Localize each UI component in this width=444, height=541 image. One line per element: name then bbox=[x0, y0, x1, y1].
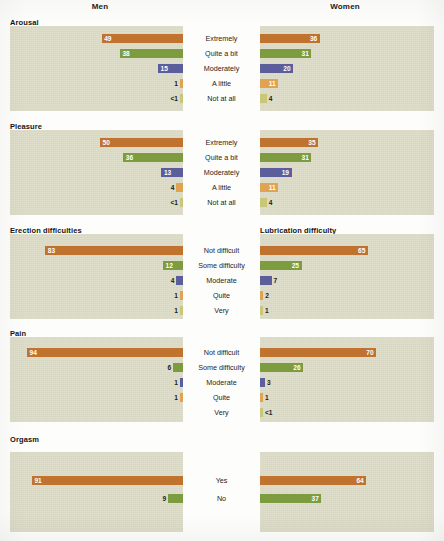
bar-track: 7 bbox=[260, 276, 433, 285]
bar-track: 35 bbox=[260, 138, 433, 147]
bar-track: 31 bbox=[260, 49, 433, 58]
category-label: Quite a bit bbox=[185, 49, 258, 58]
bar: 1 bbox=[260, 306, 263, 315]
bar: 50 bbox=[100, 138, 183, 147]
bar: <1 bbox=[180, 198, 183, 207]
bar-track: 4 bbox=[10, 276, 183, 285]
bar-track: 3 bbox=[260, 378, 433, 387]
bar: 2 bbox=[260, 291, 263, 300]
bar-track: 1 bbox=[260, 306, 433, 315]
bar-track: 26 bbox=[260, 363, 433, 372]
bar: 31 bbox=[260, 153, 311, 162]
bar-value-label: 37 bbox=[312, 495, 319, 502]
bar-track: <1 bbox=[260, 408, 433, 417]
category-label: Some difficulty bbox=[185, 363, 258, 372]
bar: 65 bbox=[260, 246, 368, 255]
plot-area-men bbox=[10, 452, 183, 532]
bar-value-label: 4 bbox=[269, 95, 273, 102]
bar: <1 bbox=[180, 94, 183, 103]
bar-track: 31 bbox=[260, 153, 433, 162]
bar-value-label: 11 bbox=[269, 80, 276, 87]
bar: 1 bbox=[180, 79, 183, 88]
column-header-women: Women bbox=[300, 2, 390, 11]
bar-value-label: 65 bbox=[358, 247, 365, 254]
bar-track: 15 bbox=[10, 64, 183, 73]
bar: 36 bbox=[260, 34, 320, 43]
category-label: Extremely bbox=[185, 34, 258, 43]
bar: 4 bbox=[176, 276, 183, 285]
bar: 3 bbox=[260, 378, 265, 387]
category-label: Moderately bbox=[185, 168, 258, 177]
category-label: Quite a bit bbox=[185, 153, 258, 162]
category-label: Not difficult bbox=[185, 246, 258, 255]
bar-track: 1 bbox=[10, 393, 183, 402]
bar-value-label: 1 bbox=[174, 307, 178, 314]
category-label: Not at all bbox=[185, 94, 258, 103]
bar: 4 bbox=[260, 94, 267, 103]
bar: 1 bbox=[180, 291, 183, 300]
bar-value-label: 31 bbox=[302, 50, 309, 57]
bar-track: 4 bbox=[260, 198, 433, 207]
bar-value-label: 19 bbox=[282, 169, 289, 176]
bar: 1 bbox=[180, 378, 183, 387]
bar: 12 bbox=[163, 261, 183, 270]
category-label: Not difficult bbox=[185, 348, 258, 357]
bar: 31 bbox=[260, 49, 311, 58]
bar-value-label: 25 bbox=[292, 262, 299, 269]
bar: 36 bbox=[123, 153, 183, 162]
bar: 49 bbox=[102, 34, 183, 43]
bar: 94 bbox=[27, 348, 183, 357]
bar: 35 bbox=[260, 138, 318, 147]
bar-value-label: 50 bbox=[103, 139, 110, 146]
bar-value-label: 9 bbox=[162, 495, 166, 502]
bar: 4 bbox=[260, 198, 267, 207]
bar-value-label: 11 bbox=[269, 184, 276, 191]
bar-track bbox=[10, 408, 183, 417]
bar-track: 1 bbox=[10, 291, 183, 300]
bar: 7 bbox=[260, 276, 272, 285]
column-header-men: Men bbox=[55, 2, 145, 11]
bar: 11 bbox=[260, 79, 278, 88]
bar-track: 49 bbox=[10, 34, 183, 43]
bar-track: 11 bbox=[260, 183, 433, 192]
bar-track: 9 bbox=[10, 494, 183, 503]
category-label: Some difficulty bbox=[185, 261, 258, 270]
bar-track: 1 bbox=[10, 306, 183, 315]
bar-value-label: 64 bbox=[356, 477, 363, 484]
bar-track: 4 bbox=[260, 94, 433, 103]
bar: 25 bbox=[260, 261, 302, 270]
bar-value-label: 3 bbox=[267, 379, 271, 386]
bar-value-label: 15 bbox=[161, 65, 168, 72]
bar: 1 bbox=[180, 393, 183, 402]
bar-track: 12 bbox=[10, 261, 183, 270]
chart-page: Men Women ArousalExtremely4936Quite a bi… bbox=[0, 0, 444, 541]
bar: 19 bbox=[260, 168, 292, 177]
bar-value-label: 38 bbox=[122, 50, 129, 57]
category-label: A little bbox=[185, 79, 258, 88]
bar-value-label: 1 bbox=[174, 379, 178, 386]
category-label: No bbox=[185, 494, 258, 503]
bar: 83 bbox=[45, 246, 183, 255]
bar: 15 bbox=[158, 64, 183, 73]
bar-track: <1 bbox=[10, 94, 183, 103]
bar-track: 11 bbox=[260, 79, 433, 88]
bar: 6 bbox=[173, 363, 183, 372]
bar-value-label: 36 bbox=[310, 35, 317, 42]
category-label: Not at all bbox=[185, 198, 258, 207]
bar-track: 38 bbox=[10, 49, 183, 58]
bar-track: 94 bbox=[10, 348, 183, 357]
bar: 1 bbox=[180, 306, 183, 315]
bar: 13 bbox=[161, 168, 183, 177]
bar-value-label: 31 bbox=[302, 154, 309, 161]
bar-value-label: 94 bbox=[29, 349, 36, 356]
bar-value-label: 13 bbox=[164, 169, 171, 176]
bar: 20 bbox=[260, 64, 293, 73]
plot-area-women bbox=[260, 452, 434, 532]
bar: 64 bbox=[260, 476, 366, 485]
bar-value-label: 6 bbox=[167, 364, 171, 371]
bar: 11 bbox=[260, 183, 278, 192]
bar: 91 bbox=[32, 476, 183, 485]
bar-track: 4 bbox=[10, 183, 183, 192]
bar-value-label: 1 bbox=[265, 307, 269, 314]
category-label: Very bbox=[185, 408, 258, 417]
